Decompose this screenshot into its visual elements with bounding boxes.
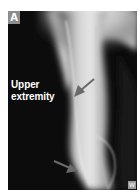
region-label-line1: Upper xyxy=(11,79,55,91)
region-label: Upper extremity xyxy=(11,79,55,103)
watermark-badge: W xyxy=(128,181,136,189)
region-label-line2: extremity xyxy=(11,91,55,103)
panel-label: A xyxy=(8,11,20,24)
xray-panel: A Upper extremity W xyxy=(8,11,137,190)
